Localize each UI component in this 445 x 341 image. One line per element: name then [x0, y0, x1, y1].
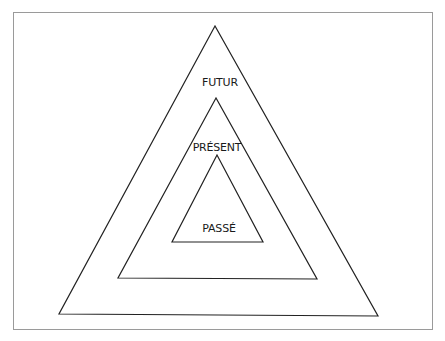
outer-triangle	[59, 26, 378, 316]
middle-triangle	[118, 98, 317, 279]
label-futur: FUTUR	[202, 76, 238, 89]
label-present: PRÉSENT	[193, 141, 242, 154]
triangles-diagram	[0, 0, 445, 341]
label-passe: PASSÉ	[202, 222, 235, 235]
